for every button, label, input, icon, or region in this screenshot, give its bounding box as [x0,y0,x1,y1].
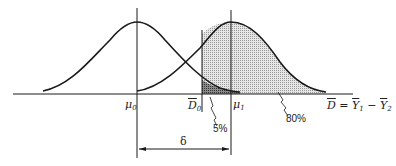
delta-label: δ [180,136,187,147]
d0-label: D0 [188,100,201,113]
mu0-label: μ0 [125,99,137,112]
delta-arrowhead-right-icon [222,147,229,151]
mu1-label: μ1 [233,99,245,112]
delta-arrowhead-left-icon [139,147,146,151]
power-region [202,22,326,94]
alpha-label: 5% [213,124,227,134]
axis-variable-label: D = Y1 − Y2 [327,100,392,113]
power-diagram: μ0 D0 μ1 D = Y1 − Y2 5% 80% δ [0,0,396,166]
diagram-canvas [0,0,396,166]
alpha-leader-line [210,97,217,126]
power-label: 80% [286,114,306,124]
